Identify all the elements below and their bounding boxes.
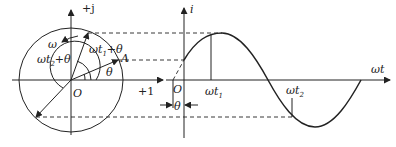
wt-axis-label: ωt — [371, 63, 385, 76]
omega-label: ω — [48, 38, 57, 51]
waveform-leadin — [173, 60, 184, 80]
real-axis-label: +1 — [138, 85, 154, 98]
theta-offset-label: θ — [174, 100, 181, 113]
waveform-origin-label: O — [173, 83, 182, 96]
t1-angle-label: ωt1+θ — [89, 43, 123, 58]
theta-arc — [84, 74, 85, 80]
phasor-waveform-diagram: +j +1 O A ω θ ωt1+θ ωt2+θ i ωt O θ ωt1 ω… — [0, 0, 396, 147]
i-axis-label: i — [190, 3, 194, 16]
waveform-plot: i ωt O θ ωt1 ωt2 — [160, 3, 390, 138]
phasor-t1 — [71, 33, 88, 80]
phasor-t2 — [36, 80, 71, 117]
imag-axis-label: +j — [82, 2, 95, 15]
phasor-origin-label: O — [73, 87, 82, 100]
t2-angle-label: ωt2+θ — [37, 53, 71, 68]
t1-label: ωt1 — [205, 85, 223, 100]
phasor-plane: +j +1 O A ω θ ωt1+θ ωt2+θ — [12, 2, 163, 135]
t1-angle-arc — [77, 61, 91, 80]
theta-angle-label: θ — [106, 66, 113, 79]
t2-label: ωt2 — [286, 84, 304, 99]
